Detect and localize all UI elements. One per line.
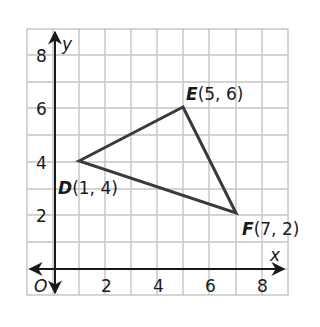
coordinate-plane: y x O 2 4 6 8 8 6 4 2 E(5, 6) D(1, 4) F(… [0,0,320,327]
origin-label: O [34,276,47,296]
point-d-label: D(1, 4) [58,178,118,198]
point-f-label: F(7, 2) [242,219,299,239]
y-tick-4: 4 [36,153,47,173]
y-axis-label: y [61,34,73,54]
x-axis-label: x [269,245,281,265]
point-e-label: E(5, 6) [186,84,243,104]
x-tick-2: 2 [101,276,112,296]
y-tick-8: 8 [36,46,47,66]
grid [27,29,288,295]
x-tick-8: 8 [257,276,268,296]
x-tick-6: 6 [205,276,216,296]
y-tick-6: 6 [36,99,47,119]
y-tick-2: 2 [36,206,47,226]
x-tick-4: 4 [153,276,164,296]
